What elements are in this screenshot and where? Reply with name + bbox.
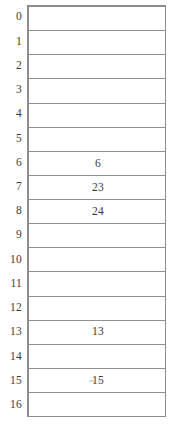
table-row: 24	[29, 200, 165, 224]
row-index-gutter: 0 1 2 3 4 5 6 7 8 9 10 11 12 13 14 15 16	[0, 5, 23, 417]
table-row	[29, 55, 165, 79]
table-row	[29, 79, 165, 103]
table-row: 15	[29, 369, 165, 393]
cell-value: 24	[92, 206, 104, 218]
row-index-label: 2	[0, 53, 23, 77]
row-index-label: 15	[0, 369, 23, 393]
table-row	[29, 104, 165, 128]
cell-value: 6	[95, 158, 101, 170]
row-index-label: 14	[0, 344, 23, 368]
row-index-label: 10	[0, 247, 23, 271]
table-row: 13	[29, 321, 165, 345]
row-index-label: 4	[0, 102, 23, 126]
row-index-label: 7	[0, 175, 23, 199]
table-row	[29, 128, 165, 152]
row-index-label: 13	[0, 320, 23, 344]
row-index-label: 1	[0, 29, 23, 53]
table-row: 23	[29, 176, 165, 200]
row-index-label: 8	[0, 199, 23, 223]
table-grid: 6 23 24 13 15	[27, 5, 166, 417]
table-row	[29, 345, 165, 369]
table-row	[29, 7, 165, 31]
row-index-label: 3	[0, 78, 23, 102]
row-index-label: 16	[0, 393, 23, 417]
table-row	[29, 272, 165, 296]
row-index-label: 9	[0, 223, 23, 247]
indexed-table-figure: 0 1 2 3 4 5 6 7 8 9 10 11 12 13 14 15 16…	[0, 0, 182, 427]
table-row	[29, 297, 165, 321]
table-row	[29, 224, 165, 248]
row-index-label: 11	[0, 272, 23, 296]
cell-value: 23	[92, 182, 104, 194]
row-index-label: 12	[0, 296, 23, 320]
table-row	[29, 31, 165, 55]
row-index-label: 0	[0, 5, 23, 29]
row-index-label: 5	[0, 126, 23, 150]
cell-value: 13	[92, 326, 104, 338]
cell-value: 15	[92, 375, 104, 387]
table-row	[29, 393, 165, 416]
table-row: 6	[29, 152, 165, 176]
row-index-label: 6	[0, 150, 23, 174]
table-row	[29, 248, 165, 272]
